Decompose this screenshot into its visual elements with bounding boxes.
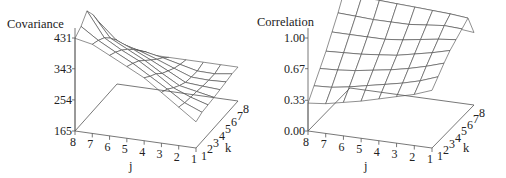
correlation-zlabel: Correlation: [257, 15, 315, 29]
covariance-ztick-2: 343: [54, 62, 72, 76]
correlation-k-ticks: 12345678: [437, 106, 485, 163]
j-tick-label: 2: [409, 150, 415, 164]
floor-edge: [75, 84, 117, 131]
j-tick-label: 7: [321, 137, 327, 151]
j-tick-label: 8: [303, 135, 309, 149]
j-tick-label: 1: [427, 152, 433, 166]
j-tick-label: 4: [139, 145, 145, 159]
correlation-ztick-1: 0.33: [284, 93, 305, 107]
j-tick-label: 7: [87, 137, 93, 151]
correlation-j-ticks: 87654321: [303, 135, 433, 166]
covariance-zlabel: Covariance: [7, 17, 64, 31]
j-tick-label: 1: [191, 152, 197, 166]
correlation-mesh: [308, 0, 474, 131]
correlation-xlabel: j: [363, 159, 367, 173]
j-tick-label: 3: [156, 147, 162, 161]
covariance-xlabel: j: [128, 159, 132, 173]
surface-plots: Covariance 165 254 343 431 87654321 1234…: [0, 0, 506, 178]
covariance-mesh: [75, 11, 238, 131]
j-tick-label: 5: [122, 142, 128, 156]
covariance-ylabel: k: [225, 141, 232, 155]
covariance-ztick-1: 254: [54, 93, 72, 107]
j-tick-label: 6: [338, 140, 344, 154]
j-tick-label: 4: [374, 145, 380, 159]
correlation-surface-chart: Correlation 0.00 0.33 0.67 1.00 87654321…: [257, 0, 485, 173]
covariance-surface-chart: Covariance 165 254 343 431 87654321 1234…: [7, 11, 249, 173]
correlation-ztick-2: 0.67: [284, 62, 305, 76]
j-tick-label: 8: [70, 135, 76, 149]
k-tick-label: 8: [479, 106, 485, 120]
j-tick-label: 3: [392, 147, 398, 161]
j-tick-label: 2: [174, 150, 180, 164]
correlation-ztick-0: 0.00: [284, 124, 305, 138]
covariance-j-ticks: 87654321: [70, 135, 197, 166]
covariance-ztick-3: 431: [54, 31, 72, 45]
correlation-ztick-3: 1.00: [284, 31, 305, 45]
k-tick-label: 8: [243, 102, 249, 116]
j-tick-label: 6: [105, 140, 111, 154]
correlation-ylabel: k: [463, 141, 470, 155]
j-tick-label: 5: [356, 142, 362, 156]
